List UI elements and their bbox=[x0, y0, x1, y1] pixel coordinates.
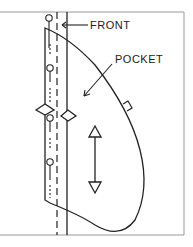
sewing-diagram: FRONT POCKET bbox=[0, 0, 193, 247]
pin-icon bbox=[47, 115, 53, 132]
notch-icon bbox=[36, 104, 54, 115]
pocket-label: POCKET bbox=[115, 53, 163, 65]
grainline-arrow-icon bbox=[89, 126, 101, 193]
pin-icon bbox=[47, 65, 53, 82]
front-label: FRONT bbox=[90, 19, 130, 31]
pin-icon bbox=[47, 159, 53, 180]
frame bbox=[0, 12, 184, 235]
notch-icon bbox=[61, 110, 76, 121]
